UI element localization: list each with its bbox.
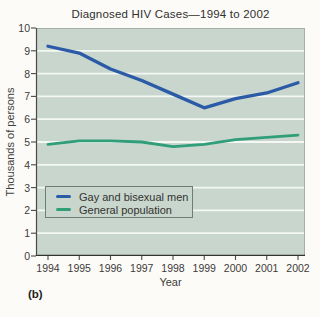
chart-title: Diagnosed HIV Cases—1994 to 2002	[36, 8, 305, 20]
legend-item-gay-bisexual-men: Gay and bisexual men	[56, 190, 192, 203]
x-tick-label: 1996	[95, 262, 127, 274]
y-tick-label: 2	[2, 203, 30, 217]
y-tick-label: 10	[2, 21, 30, 35]
y-tick-label: 7	[2, 89, 30, 103]
y-tick-label: 4	[2, 158, 30, 172]
legend-item-general-population: General population	[56, 203, 192, 216]
plot-area	[36, 28, 305, 256]
y-tick-label: 1	[2, 226, 30, 240]
hiv-cases-line-chart: Diagnosed HIV Cases—1994 to 2002 Thousan…	[0, 0, 320, 317]
y-tick-label: 9	[2, 44, 30, 58]
x-axis-label: Year	[36, 276, 305, 288]
x-tick-label: 2000	[220, 262, 252, 274]
legend-label: General population	[79, 204, 172, 216]
green-line-swatch	[56, 208, 71, 211]
x-tick-label: 1995	[63, 262, 95, 274]
legend-label: Gay and bisexual men	[79, 191, 188, 203]
x-tick-label: 1999	[188, 262, 220, 274]
x-tick-label: 1994	[32, 262, 64, 274]
blue-line-swatch	[56, 195, 71, 198]
x-tick-label: 2001	[251, 262, 283, 274]
y-tick-label: 0	[2, 249, 30, 263]
y-tick-label: 8	[2, 67, 30, 81]
y-tick-label: 3	[2, 181, 30, 195]
x-tick-label: 1998	[157, 262, 189, 274]
chart-canvas	[36, 28, 305, 256]
x-tick-label: 1997	[126, 262, 158, 274]
y-tick-label: 5	[2, 135, 30, 149]
x-tick-label: 2002	[282, 262, 314, 274]
y-tick-label: 6	[2, 112, 30, 126]
legend: Gay and bisexual men General population	[45, 186, 193, 218]
figure-panel-label: (b)	[28, 288, 43, 300]
